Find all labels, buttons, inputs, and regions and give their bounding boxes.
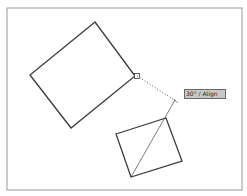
alignment-tracking-line — [137, 76, 176, 101]
snap-tooltip: 30° / Align — [184, 89, 226, 99]
tooltip-angle: 30° — [186, 90, 197, 97]
large-rectangle-shape[interactable] — [30, 22, 135, 128]
viewport-frame — [7, 8, 242, 190]
small-square-shape[interactable] — [116, 118, 182, 177]
tooltip-label: Align — [202, 90, 217, 97]
drawing-canvas[interactable]: 30° / Align — [0, 0, 247, 196]
